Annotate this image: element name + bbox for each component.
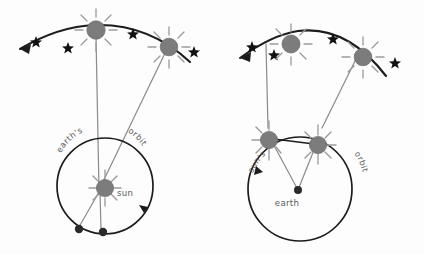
sight-line-to-star-a xyxy=(266,44,268,128)
sun-icon xyxy=(282,35,300,53)
right-sight-lines xyxy=(266,44,357,190)
left-sun-label: sun xyxy=(117,188,133,198)
right-star-marks xyxy=(246,33,401,68)
sight-line-to-far-sun-b xyxy=(99,47,168,190)
sun-icon xyxy=(354,48,372,66)
right-orbit-sun-b xyxy=(305,125,336,164)
parallax-figure: earth's orbit sun xyxy=(0,0,424,254)
left-far-sun-b xyxy=(148,27,190,68)
earth-dot-icon xyxy=(75,225,83,233)
sun-icon xyxy=(260,131,277,148)
left-panel-group: earth's orbit sun xyxy=(20,9,200,236)
right-far-sun-b xyxy=(342,37,384,78)
left-orbit-label-earths: earth's xyxy=(54,125,84,154)
star-icon xyxy=(268,49,280,60)
left-far-sun-a xyxy=(75,9,117,51)
star-icon xyxy=(188,46,200,57)
star-icon xyxy=(327,33,339,44)
orbit-direction-arrowhead xyxy=(139,205,148,213)
parallax-diagram-canvas: earth's orbit sun xyxy=(0,0,424,254)
left-earth-positions xyxy=(75,225,107,236)
star-icon xyxy=(62,42,74,53)
earth-dot-icon xyxy=(294,186,302,194)
star-icon xyxy=(389,57,401,68)
sun-icon xyxy=(87,21,105,39)
right-far-sun-a xyxy=(270,24,312,65)
sun-icon xyxy=(309,136,326,153)
sun-icon xyxy=(96,179,113,196)
right-orbit-label-orbit: orbit xyxy=(353,149,371,173)
sight-line-to-far-sun-a xyxy=(96,36,99,190)
sight-line-earth-b xyxy=(100,192,101,229)
right-panel-group: sun's orbit earth xyxy=(240,24,401,241)
right-earth-label: earth xyxy=(275,198,299,208)
earth-dot-icon xyxy=(99,228,107,236)
sun-icon xyxy=(160,38,178,56)
